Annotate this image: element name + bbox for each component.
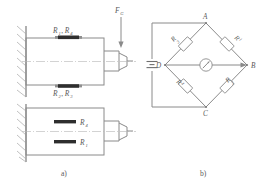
label-inner-r4: R (79, 118, 85, 127)
force-label: F (114, 6, 120, 15)
node-dot-d (164, 64, 166, 66)
beam-tip-block-bottom (104, 121, 119, 141)
supply-wire-top (152, 23, 206, 59)
strain-gauge-bottom (58, 84, 79, 88)
label-inner-r1: R (79, 138, 85, 147)
force-label-subscript: G (120, 11, 124, 16)
strain-gauge-bottom-pad-right (79, 85, 82, 88)
strain-gauge-top-pad-right (79, 36, 82, 39)
wall-hatching-bottom (17, 104, 26, 162)
figure-svg: F G R 1 , R 4 R 2 , R 3 (0, 0, 271, 184)
label-r3-sub: 3 (70, 94, 73, 99)
label-inner-r4-sub: 4 (85, 123, 88, 128)
strain-gauge-inner-upper (54, 120, 76, 123)
label-r2: R (52, 89, 58, 98)
label-r4-top: R (64, 26, 70, 35)
strain-gauge-top-pad-left (55, 36, 58, 39)
strain-gauge-inner-lower (54, 140, 76, 143)
strain-gauge-bottom-pad-left (55, 85, 58, 88)
force-arrow-head (118, 42, 123, 49)
node-label-c: C (203, 110, 208, 118)
caption-panel-a: a) (61, 169, 67, 178)
panel-b-bridge: R 3 R 1 R 4 R 2 (147, 13, 257, 178)
label-r1r4-comma: , (61, 26, 63, 35)
label-r2r3-comma: , (61, 89, 63, 98)
node-label-a: A (202, 13, 208, 21)
panel-a-bottom-assembly: R 4 R 1 a) (17, 104, 136, 178)
node-dot-b (246, 64, 248, 66)
strain-gauge-top (58, 36, 79, 40)
label-r3: R (64, 89, 70, 98)
supply-wire-bottom (152, 71, 206, 107)
figure-root: F G R 1 , R 4 R 2 , R 3 (0, 0, 271, 184)
node-label-b: B (251, 62, 256, 70)
label-r4-top-sub: 4 (70, 31, 73, 36)
caption-panel-b: b) (200, 169, 207, 178)
label-inner-r1-sub: 1 (85, 143, 87, 148)
node-label-d: D (155, 62, 162, 70)
beam-tip-block-top (104, 51, 119, 71)
panel-a-top-assembly: F G R 1 , R 4 R 2 , R 3 (17, 6, 136, 99)
label-r1: R (52, 26, 58, 35)
